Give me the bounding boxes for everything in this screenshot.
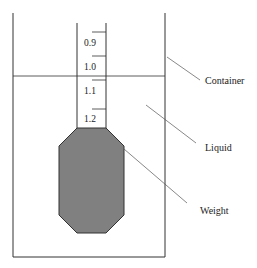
scale-label-1.2: 1.2 [84,114,96,124]
hydrometer-diagram: 0.9 1.0 1.1 1.2 Container Liquid Weight [0,0,257,268]
container-label: Container [205,75,245,86]
liquid-label: Liquid [205,142,232,153]
container-leader [167,57,200,80]
scale-label-0.9: 0.9 [84,38,96,48]
liquid-leader [146,105,196,143]
weight-bulb [59,128,124,233]
weight-label: Weight [200,205,229,216]
weight-leader [124,149,187,203]
scale-label-1.0: 1.0 [84,62,96,72]
scale-label-1.1: 1.1 [84,86,96,96]
